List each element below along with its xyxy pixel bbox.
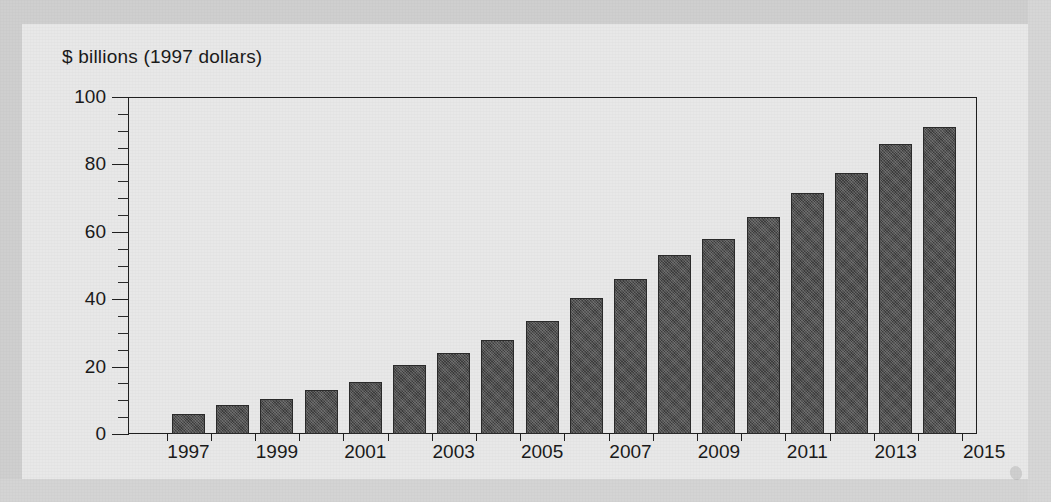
y-tick-major: [112, 232, 129, 233]
y-tick-minor: [118, 400, 129, 401]
x-tick: [343, 434, 344, 441]
x-tick: [609, 434, 610, 441]
bar: [437, 353, 470, 434]
y-tick-label: 20: [36, 356, 106, 378]
y-tick-minor: [118, 198, 129, 199]
y-tick-major: [112, 164, 129, 165]
x-tick: [299, 434, 300, 441]
x-tick-label: 2013: [866, 441, 926, 463]
x-tick-label: 1997: [159, 441, 219, 463]
x-tick: [255, 434, 256, 441]
bar: [570, 298, 603, 435]
bar-chart: $ billions (1997 dollars) 02040608010019…: [0, 0, 1051, 502]
bar: [747, 217, 780, 434]
y-tick-minor: [118, 249, 129, 250]
x-tick: [564, 434, 565, 441]
bar: [216, 405, 249, 434]
x-tick: [962, 434, 963, 441]
y-tick-major: [112, 299, 129, 300]
scan-speck: [1008, 464, 1024, 481]
y-tick-minor: [118, 266, 129, 267]
bar: [835, 173, 868, 434]
x-tick: [432, 434, 433, 441]
y-tick-minor: [118, 131, 129, 132]
y-tick-minor: [118, 350, 129, 351]
bar: [923, 127, 956, 434]
bar: [614, 279, 647, 434]
y-tick-major: [112, 97, 129, 98]
x-tick: [830, 434, 831, 441]
x-tick-label: 2007: [601, 441, 661, 463]
x-tick: [167, 434, 168, 441]
x-tick: [918, 434, 919, 441]
y-tick-label: 0: [36, 423, 106, 445]
scanned-page: $ billions (1997 dollars) 02040608010019…: [0, 0, 1051, 502]
bar: [172, 414, 205, 434]
x-tick-label: 2011: [777, 441, 837, 463]
x-tick: [741, 434, 742, 441]
x-tick: [874, 434, 875, 441]
y-tick-major: [112, 367, 129, 368]
y-tick-minor: [118, 383, 129, 384]
y-tick-minor: [118, 282, 129, 283]
y-axis-title: $ billions (1997 dollars): [62, 46, 262, 68]
x-tick: [520, 434, 521, 441]
y-tick-minor: [118, 114, 129, 115]
bar: [879, 144, 912, 434]
bar: [658, 255, 691, 434]
y-tick-minor: [118, 148, 129, 149]
x-tick-label: 2015: [954, 441, 1014, 463]
x-tick: [785, 434, 786, 441]
y-tick-label: 80: [36, 153, 106, 175]
bar: [481, 340, 514, 434]
x-tick-label: 2009: [689, 441, 749, 463]
x-tick: [697, 434, 698, 441]
y-tick-minor: [118, 181, 129, 182]
y-tick-major: [112, 434, 129, 435]
x-tick-label: 1999: [247, 441, 307, 463]
y-tick-minor: [118, 333, 129, 334]
bar: [526, 321, 559, 434]
x-tick: [476, 434, 477, 441]
y-tick-minor: [118, 417, 129, 418]
bar-series: [128, 97, 977, 434]
y-tick-label: 100: [36, 86, 106, 108]
x-tick: [388, 434, 389, 441]
x-tick: [211, 434, 212, 441]
x-tick: [653, 434, 654, 441]
bar: [702, 239, 735, 435]
x-tick-label: 2005: [512, 441, 572, 463]
x-tick-label: 2001: [335, 441, 395, 463]
y-tick-label: 40: [36, 288, 106, 310]
bar: [305, 390, 338, 434]
y-tick-label: 60: [36, 221, 106, 243]
bar: [791, 193, 824, 434]
bar: [349, 382, 382, 434]
bar: [260, 399, 293, 434]
bar: [393, 365, 426, 434]
y-tick-minor: [118, 215, 129, 216]
x-tick-label: 2003: [424, 441, 484, 463]
y-tick-minor: [118, 316, 129, 317]
